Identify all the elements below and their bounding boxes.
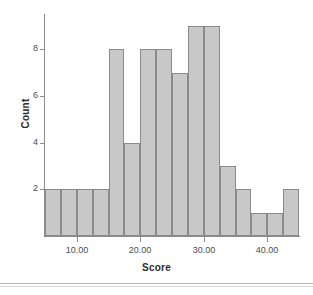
histogram-bar — [156, 49, 172, 236]
histogram-bar — [204, 26, 220, 236]
x-tick-label: 10.00 — [57, 245, 97, 255]
histogram-bar — [61, 189, 77, 236]
x-tick-label: 30.00 — [184, 245, 224, 255]
y-tick-label: 4 — [18, 138, 38, 147]
histogram-bar — [172, 73, 188, 236]
x-axis-line — [44, 236, 300, 237]
figure-bottom-rule-shadow — [0, 286, 313, 287]
x-tick-label: 20.00 — [120, 245, 160, 255]
histogram-bar — [45, 189, 61, 236]
histogram-bar — [109, 49, 125, 236]
histogram-bar — [236, 189, 252, 236]
x-axis-title: Score — [0, 262, 313, 273]
histogram-bar — [77, 189, 93, 236]
histogram-bar — [93, 189, 109, 236]
x-tick-label: 40.00 — [247, 245, 287, 255]
histogram-bar — [188, 26, 204, 236]
y-tick-label: 2 — [18, 184, 38, 193]
histogram-bar — [140, 49, 156, 236]
x-tick-mark — [204, 237, 205, 242]
histogram-bar — [124, 143, 140, 236]
x-tick-mark — [140, 237, 141, 242]
figure-bottom-rule — [0, 283, 313, 284]
x-tick-mark — [267, 237, 268, 242]
y-tick-label: 8 — [18, 44, 38, 53]
histogram-bar — [251, 213, 267, 236]
x-tick-mark — [77, 237, 78, 242]
y-tick-label: 6 — [18, 91, 38, 100]
histogram-bar — [283, 189, 299, 236]
histogram-bar — [267, 213, 283, 236]
histogram-bar — [220, 166, 236, 236]
histogram-figure: Count 2468 10.0020.0030.0040.00 Score — [0, 0, 313, 295]
histogram-bars — [45, 14, 299, 236]
